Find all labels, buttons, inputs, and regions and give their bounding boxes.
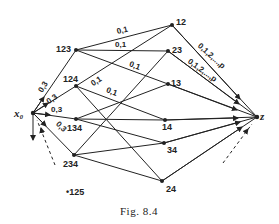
graph-diagram <box>0 0 279 224</box>
node-24 <box>160 179 164 183</box>
label-134: 134 <box>67 124 82 133</box>
label-23: 23 <box>172 46 182 55</box>
label-24: 24 <box>166 185 176 194</box>
node-234 <box>72 153 76 157</box>
label-125: •125 <box>66 188 84 197</box>
label-z: z <box>260 110 264 122</box>
edge-label-x0-134: 0,3 <box>51 106 62 114</box>
figure-caption: Fig. 8.4 <box>120 205 158 217</box>
label-123: 123 <box>56 45 71 54</box>
node-124 <box>74 84 78 88</box>
node-12 <box>170 23 174 27</box>
edge-234-34 <box>74 143 164 155</box>
node-x0 <box>31 111 35 115</box>
label-124: 124 <box>63 75 78 84</box>
edge-134-14 <box>76 119 165 120</box>
edge-label-123-23: 0,1 <box>115 41 126 49</box>
label-12: 12 <box>176 18 186 27</box>
edge-123-23 <box>76 50 168 51</box>
label-13: 13 <box>171 79 181 88</box>
node-34 <box>162 141 166 145</box>
label-34: 34 <box>167 146 177 155</box>
edge-134-34 <box>76 119 164 143</box>
node-134 <box>74 117 78 121</box>
node-23 <box>166 49 170 53</box>
edge-234-24 <box>74 155 162 181</box>
label-234: 234 <box>63 160 78 169</box>
label-x0: x₀ <box>14 107 23 119</box>
node-13 <box>166 82 170 86</box>
label-14: 14 <box>162 123 172 132</box>
edge-124-24 <box>76 86 162 181</box>
node-123 <box>74 48 78 52</box>
node-z <box>255 115 259 119</box>
